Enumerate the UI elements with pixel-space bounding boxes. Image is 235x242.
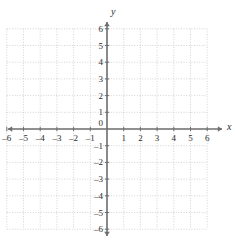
x-tick-label: 5: [188, 134, 193, 143]
x-tick-label: 6: [205, 134, 210, 143]
x-tick-label: 2: [138, 134, 143, 143]
y-tick-label: 5: [99, 41, 104, 50]
y-tick-label: 1: [99, 108, 104, 117]
y-tick-label: –3: [94, 175, 103, 184]
y-tick-label: –5: [94, 208, 103, 217]
y-tick-label: –6: [94, 225, 103, 234]
x-tick-label: –2: [69, 134, 78, 143]
y-tick-label: –2: [94, 158, 103, 167]
coordinate-plane: [0, 0, 235, 242]
y-tick-label: 2: [99, 91, 104, 100]
x-tick-label: –4: [36, 134, 45, 143]
x-tick-label: –5: [19, 134, 28, 143]
y-tick-label: 6: [99, 24, 104, 33]
x-tick-label: 3: [155, 134, 160, 143]
x-tick-label: 4: [172, 134, 177, 143]
y-tick-label: 4: [99, 58, 104, 67]
x-tick-label: 1: [121, 134, 126, 143]
plot-background: [0, 0, 235, 242]
y-tick-label: –4: [94, 191, 103, 200]
x-tick-label: –6: [2, 134, 11, 143]
y-tick-label: 3: [99, 74, 104, 83]
y-axis-label: y: [111, 7, 115, 17]
origin-label: 0: [99, 119, 104, 128]
y-tick-label: –1: [94, 141, 103, 150]
x-tick-label: –3: [52, 134, 61, 143]
x-axis-label: x: [227, 122, 231, 132]
